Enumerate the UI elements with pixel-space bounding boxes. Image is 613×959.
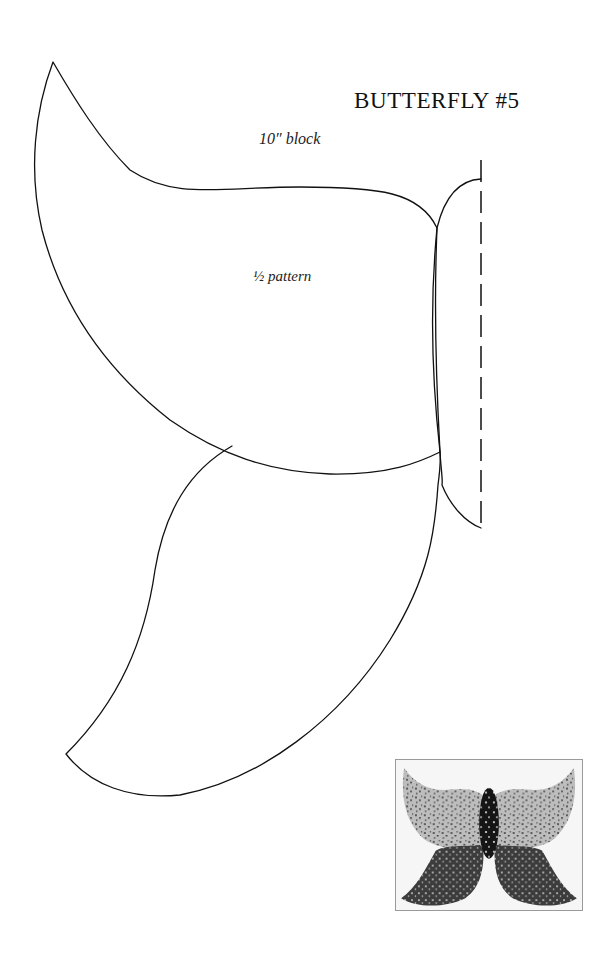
inset-right-lower-wing xyxy=(495,845,577,906)
lower-wing-outline xyxy=(66,446,440,796)
finished-block-photo xyxy=(395,759,583,911)
inset-right-upper-wing xyxy=(491,768,575,849)
upper-wing-outline xyxy=(35,62,440,474)
inset-left-upper-wing xyxy=(403,768,487,849)
body-outline xyxy=(433,179,481,528)
inset-left-lower-wing xyxy=(401,845,483,906)
inset-body xyxy=(479,788,499,859)
butterfly-block-illustration xyxy=(396,760,582,910)
